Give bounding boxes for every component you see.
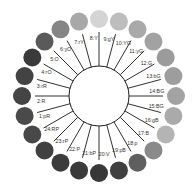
hue-swatch-20 — [90, 164, 108, 182]
hue-swatch-3 — [16, 67, 34, 85]
hue-swatch-19 — [110, 161, 128, 179]
spoke-line — [54, 51, 78, 75]
hue-swatch-18 — [129, 154, 147, 172]
hue-label-16: 16:gB — [145, 117, 159, 123]
hue-label-2: 2:R — [37, 98, 45, 104]
hue-label-3: 3:rR — [37, 83, 47, 89]
hue-label-13: 13:bG — [146, 73, 160, 79]
hue-label-20: 20:V — [99, 151, 110, 157]
hue-label-4: 4:rO — [41, 69, 51, 75]
hue-swatch-2 — [13, 87, 31, 105]
hue-label-5: 5:O — [50, 56, 59, 62]
hue-swatch-21 — [70, 161, 88, 179]
hue-swatch-8 — [90, 10, 108, 28]
hue-label-18: 18:p — [127, 140, 137, 146]
hue-swatch-6 — [52, 20, 70, 38]
hue-label-7: 7:rY — [74, 39, 84, 45]
hue-color-wheel: 1:pR2:R3:rR4:rO5:O6:yO7:rY8:Y9:gY10:YG11… — [0, 0, 195, 187]
hue-swatch-22 — [52, 154, 70, 172]
hue-label-19: 19:pB — [112, 147, 126, 153]
hue-swatch-12 — [157, 49, 175, 67]
hue-swatch-9 — [110, 13, 128, 31]
hue-swatch-5 — [36, 33, 54, 51]
hue-swatch-16 — [157, 126, 175, 144]
hue-swatch-15 — [164, 107, 182, 125]
hue-label-12: 12:G — [141, 60, 152, 66]
spoke-line — [37, 104, 70, 113]
hue-label-10: 10:YG — [116, 40, 131, 46]
hue-swatch-17 — [144, 141, 162, 159]
hue-label-6: 6:yO — [60, 46, 71, 52]
hue-label-15: 15:BG — [149, 103, 164, 109]
hue-swatch-4 — [23, 49, 41, 67]
hue-label-24: 24:RP — [44, 126, 59, 132]
hue-label-9: 9:gY — [103, 36, 114, 42]
hue-label-11: 11:yG — [129, 48, 143, 54]
hue-label-21: 21:bP — [82, 150, 96, 156]
hue-swatch-14 — [167, 87, 185, 105]
hue-label-23: 23:rP — [56, 138, 69, 144]
hue-swatch-11 — [144, 33, 162, 51]
hue-swatch-1 — [16, 107, 34, 125]
hue-label-14: 14:BG — [149, 88, 164, 94]
center-circle — [69, 66, 129, 126]
hue-label-8: 8:Y — [90, 35, 98, 41]
hue-swatch-23 — [36, 141, 54, 159]
hue-label-1: 1:pR — [39, 113, 50, 119]
hue-swatch-13 — [164, 67, 182, 85]
hue-swatch-10 — [129, 20, 147, 38]
hue-swatch-7 — [70, 13, 88, 31]
hue-swatch-24 — [23, 126, 41, 144]
hue-label-17: 17:B — [138, 130, 149, 136]
hue-label-22: 22:P — [69, 146, 80, 152]
